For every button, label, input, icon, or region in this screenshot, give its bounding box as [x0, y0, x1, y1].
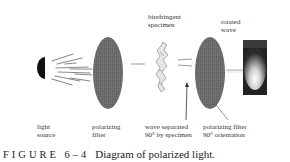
label-line: wave separated	[145, 123, 192, 131]
arrow-filter-90	[213, 101, 228, 120]
label-line: birefringent	[148, 13, 181, 21]
label-light-source: light source	[37, 123, 55, 139]
label-line: rotated	[221, 18, 240, 26]
separated-beams	[178, 59, 192, 66]
label-polarizing-filter: polarizing filter	[92, 123, 120, 139]
birefringent-specimen-shape	[156, 42, 168, 92]
figure-title: Diagram of polarized light.	[95, 148, 215, 160]
polarizing-filter-90-shape	[195, 37, 225, 109]
light-rays	[52, 54, 92, 85]
figure-label: FIGURE 6–4	[3, 149, 89, 160]
arrow-wave-separated	[186, 84, 187, 120]
label-line: wave	[221, 26, 240, 34]
label-wave-separated: wave separated 90° by specimen	[145, 123, 192, 139]
light-source-icon	[37, 57, 45, 79]
label-line: source	[37, 131, 55, 139]
label-line: specimen	[148, 21, 181, 29]
rotated-wave-image	[243, 40, 267, 95]
label-line: 90° orientation	[203, 131, 247, 139]
label-line: 90° by specimen	[145, 131, 192, 139]
label-polarizing-filter-90: polarizing filter 90° orientation	[203, 123, 247, 139]
label-line: light	[37, 123, 55, 131]
label-line: polarizing filter	[203, 123, 247, 131]
label-line: filter	[92, 131, 120, 139]
label-line: polarizing	[92, 123, 120, 131]
label-birefringent-specimen: birefringent specimen	[148, 13, 181, 29]
figure-caption: FIGURE 6–4Diagram of polarized light.	[3, 148, 215, 160]
label-rotated-wave: rotated wave	[221, 18, 240, 34]
polarizing-filter-shape	[93, 37, 123, 109]
